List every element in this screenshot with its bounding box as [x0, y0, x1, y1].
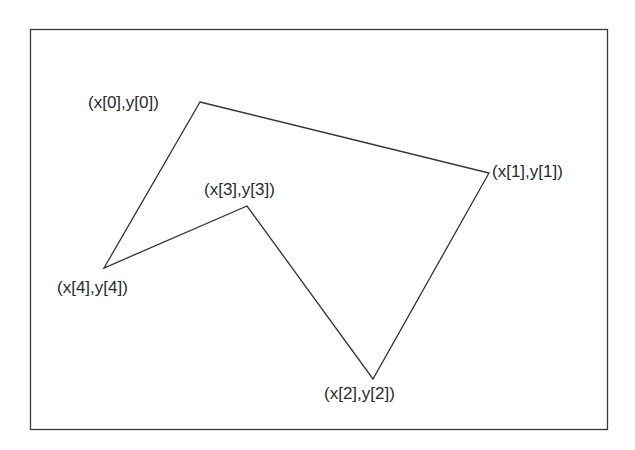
vertex-label-4: (x[4],y[4]): [57, 278, 128, 297]
vertex-label-1: (x[1],y[1]): [492, 162, 563, 181]
vertex-label-2: (x[2],y[2]): [324, 384, 395, 403]
polygon-diagram: (x[0],y[0]) (x[1],y[1]) (x[2],y[2]) (x[3…: [0, 0, 635, 450]
diagram-frame: [31, 30, 608, 430]
polygon-outline: [104, 102, 489, 379]
vertex-label-0: (x[0],y[0]): [88, 93, 159, 112]
vertex-label-3: (x[3],y[3]): [204, 180, 275, 199]
